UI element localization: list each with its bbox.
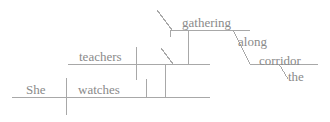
word-participle: gathering: [182, 16, 231, 29]
participle-slant: [157, 10, 172, 30]
word-article: the: [288, 70, 304, 83]
word-subject: She: [26, 83, 46, 96]
word-preposition: along: [238, 35, 267, 48]
sentence-diagram-canvas: She watches teachers gathering along cor…: [0, 0, 330, 122]
word-prep-object: corridor: [259, 54, 301, 67]
word-verb: watches: [78, 83, 120, 96]
word-object: teachers: [79, 50, 122, 63]
object-modifier-slant: [161, 48, 173, 64]
